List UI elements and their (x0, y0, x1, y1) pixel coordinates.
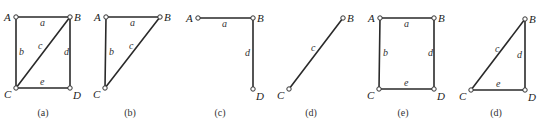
panel-c: adABD(c) (185, 12, 264, 119)
vertex-label-A: A (367, 12, 375, 24)
vertex-node-B (68, 15, 72, 19)
vertex-node-A (196, 16, 200, 20)
vertex-node-C (377, 87, 381, 91)
vertex-label-B: B (438, 12, 445, 24)
edge-label-d: d (428, 47, 434, 58)
edge-label-d: d (64, 46, 70, 57)
vertex-label-B: B (164, 11, 171, 23)
vertex-node-C (469, 88, 473, 92)
vertex-node-B (251, 16, 255, 20)
edge-b (379, 18, 380, 89)
edge-label-a: a (130, 17, 135, 28)
vertex-label-A: A (93, 11, 101, 23)
vertex-label-D: D (72, 89, 81, 101)
vertex-node-B (432, 16, 436, 20)
vertex-label-D: D (527, 91, 536, 103)
panel-d2: cdeBCD(d) (459, 13, 536, 119)
vertex-label-B: B (347, 12, 354, 24)
edge-label-a: a (222, 18, 227, 29)
vertex-label-C: C (4, 88, 12, 100)
vertex-node-D (523, 88, 527, 92)
vertex-node-D (68, 86, 72, 90)
vertex-node-B (523, 17, 527, 21)
edge-label-c: c (311, 42, 316, 53)
panel-e: abdeABCD(e) (367, 12, 445, 119)
vertex-label-D: D (436, 90, 445, 102)
vertex-node-D (251, 87, 255, 91)
panel-a: abcdeABCD(a) (3, 11, 81, 119)
edge-b (105, 17, 106, 88)
edge-label-b: b (383, 47, 388, 58)
vertex-label-C: C (93, 88, 101, 100)
panel-caption: (e) (397, 107, 408, 119)
vertex-label-C: C (459, 90, 467, 102)
edge-label-b: b (19, 46, 24, 57)
edge-label-d: d (517, 49, 523, 60)
edge-label-a: a (404, 18, 409, 29)
edge-label-e: e (496, 78, 501, 89)
vertex-node-C (103, 86, 107, 90)
vertex-node-B (158, 15, 162, 19)
panel-caption: (d) (305, 107, 317, 119)
panel-d: cBC(d) (277, 12, 354, 119)
edge-label-c: c (495, 43, 500, 54)
vertex-label-A: A (185, 12, 193, 24)
vertex-node-A (14, 15, 18, 19)
panel-caption: (c) (214, 107, 225, 119)
vertex-node-A (104, 15, 108, 19)
vertex-label-B: B (74, 11, 81, 23)
vertex-node-B (341, 16, 345, 20)
panel-b: abcABC(b) (93, 11, 171, 119)
vertex-label-A: A (3, 11, 11, 23)
edge-c (289, 18, 343, 89)
vertex-label-C: C (277, 89, 285, 101)
vertex-label-B: B (529, 13, 536, 25)
vertex-label-B: B (257, 12, 264, 24)
panel-caption: (a) (37, 107, 48, 119)
vertex-node-C (287, 87, 291, 91)
edge-label-a: a (40, 17, 45, 28)
vertex-node-A (378, 16, 382, 20)
panel-caption: (b) (124, 107, 136, 119)
edge-label-b: b (109, 46, 114, 57)
vertex-label-C: C (367, 89, 375, 101)
vertex-node-D (432, 87, 436, 91)
edge-label-e: e (40, 76, 45, 87)
edge-label-e: e (404, 77, 409, 88)
graph-subgraph-figure: abcdeABCD(a)abcABC(b)adABD(c)cBC(d)abdeA… (0, 0, 546, 130)
edge-label-d: d (245, 47, 251, 58)
vertex-node-C (14, 86, 18, 90)
panel-caption: (d) (490, 107, 502, 119)
edge-label-c: c (38, 40, 43, 51)
vertex-label-D: D (255, 90, 264, 102)
edge-label-c: c (129, 40, 134, 51)
